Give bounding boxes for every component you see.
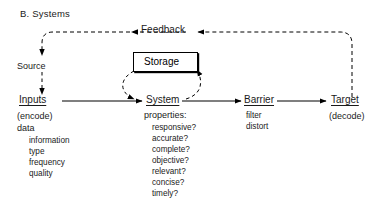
edge-label-feedback: Feedback xyxy=(141,25,185,35)
node-barrier-item-1: distort xyxy=(246,123,268,131)
node-system-item-3: objective? xyxy=(152,157,189,165)
node-system-item-1: accurate? xyxy=(152,135,188,143)
node-inputs-item-3: quality xyxy=(29,170,53,178)
node-target-label: Target xyxy=(331,95,359,105)
node-barrier-label: Barrier xyxy=(244,95,274,105)
node-inputs-item-0: information xyxy=(29,137,70,145)
diagram-canvas: B. Systems Feed xyxy=(0,0,391,207)
node-system-item-2: complete? xyxy=(152,146,190,154)
edge-feedback-to-source xyxy=(42,32,186,52)
node-target-sub: (decode) xyxy=(329,112,365,121)
node-system-item-5: concise? xyxy=(152,179,184,187)
node-system-item-4: relevant? xyxy=(152,168,186,176)
edge-feedback-source-arrowhead xyxy=(39,49,44,56)
node-inputs-label: Inputs xyxy=(19,95,46,105)
edge-storage-to-system xyxy=(123,71,134,99)
node-barrier-item-0: filter xyxy=(246,112,261,120)
edge-feedback-left-arrowhead xyxy=(131,29,138,34)
node-system-sub: properties: xyxy=(144,111,187,120)
node-system-item-0: responsive? xyxy=(152,124,196,132)
node-inputs-sub: (encode) xyxy=(17,112,53,121)
edge-system-to-storage xyxy=(186,70,201,99)
node-storage-label: Storage xyxy=(144,56,179,67)
node-source-label: Source xyxy=(17,62,46,71)
node-system-item-6: timely? xyxy=(152,190,178,198)
node-inputs-group: data xyxy=(17,124,35,133)
edge-feedback-from-target xyxy=(198,32,352,97)
node-inputs-item-2: frequency xyxy=(29,159,65,167)
node-inputs-item-1: type xyxy=(29,148,44,156)
node-system-label: System xyxy=(146,95,179,105)
